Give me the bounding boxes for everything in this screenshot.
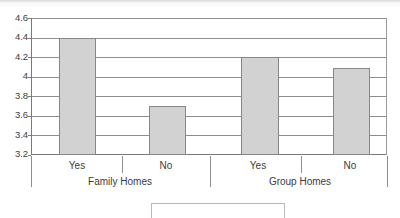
bar-family-homes-no[interactable]	[149, 106, 186, 155]
category-label-group-no: No	[320, 160, 380, 171]
category-label-family-no: No	[136, 160, 196, 171]
gridline-4-6	[32, 18, 386, 19]
y-tick-label-3-8: 3.8	[0, 91, 28, 101]
category-axis-left-end	[31, 156, 32, 187]
group-label-family-homes: Family Homes	[70, 176, 170, 187]
plot-area	[31, 18, 387, 155]
y-tick-label-3-4: 3.4	[0, 130, 28, 140]
y-tick-label-4-2: 4.2	[0, 52, 28, 62]
y-tick-label-3-6: 3.6	[0, 110, 28, 120]
group-label-group-homes: Group Homes	[250, 176, 350, 187]
category-separator-group	[301, 156, 302, 173]
y-tick-label-3-2: 3.2	[0, 149, 28, 159]
legend-box	[151, 203, 285, 218]
y-tick-label-4-6: 4.6	[0, 13, 28, 23]
group-separator	[210, 156, 211, 187]
category-label-family-yes: Yes	[47, 160, 107, 171]
bar-group-homes-no[interactable]	[333, 68, 370, 155]
bar-family-homes-yes[interactable]	[59, 38, 96, 155]
category-label-group-yes: Yes	[228, 160, 288, 171]
bar-group-homes-yes[interactable]	[241, 57, 279, 155]
category-separator-family	[122, 156, 123, 173]
y-tick-label-4-4: 4.4	[0, 32, 28, 42]
category-axis-right-end	[387, 156, 388, 187]
bar-chart: 4.6 4.4 4.2 4 3.8 3.6 3.4 3.2 Yes No Yes…	[0, 0, 400, 218]
y-tick-label-4: 4	[0, 71, 28, 81]
